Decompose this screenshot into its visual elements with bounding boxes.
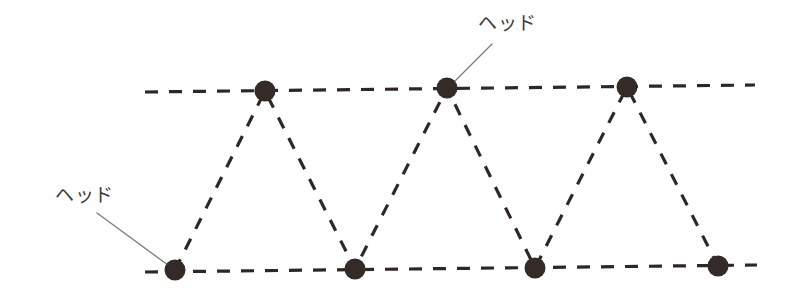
leader-line-head-bottom [97,213,172,268]
top-node-1[interactable] [255,81,276,102]
leader-line-head-top [452,44,492,84]
label-head-top: ヘッド [478,14,537,33]
diagram-canvas: ヘッド ヘッド [0,0,791,306]
bottom-node-2[interactable] [345,259,366,280]
bottom-rail-line [145,265,757,272]
leader-line-group [97,44,492,268]
top-node-group [255,77,638,102]
bottom-node-4[interactable] [708,256,729,277]
top-node-2[interactable] [437,78,458,99]
bottom-node-3[interactable] [525,258,546,279]
zigzag-group [175,87,718,270]
zigzag-path [175,87,718,270]
bottom-node-group [165,256,729,281]
head-arrangement-diagram [0,0,791,306]
label-head-bottom: ヘッド [55,186,114,205]
bottom-node-1[interactable] [165,260,186,281]
rail-group [145,85,757,272]
top-node-3[interactable] [617,77,638,98]
